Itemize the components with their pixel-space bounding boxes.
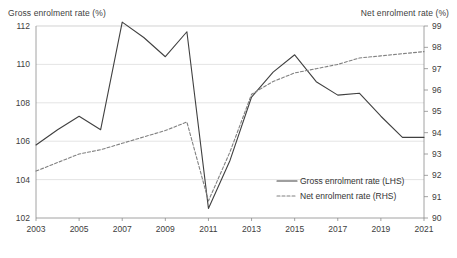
- x-tick-label: 2005: [70, 224, 89, 234]
- x-tick-label: 2021: [415, 224, 434, 234]
- plot-area-border: [36, 26, 424, 218]
- right-tick-label: 95: [432, 106, 442, 116]
- right-tick-label: 94: [432, 128, 442, 138]
- left-tick-label: 112: [16, 21, 30, 31]
- left-tick-label: 102: [16, 213, 30, 223]
- right-tick-label: 97: [432, 64, 442, 74]
- legend-label-1: Net enrolment rate (RHS): [300, 191, 397, 201]
- right-tick-label: 98: [432, 42, 442, 52]
- x-tick-label: 2003: [27, 224, 46, 234]
- right-tick-label: 92: [432, 170, 442, 180]
- left-tick-label: 110: [16, 59, 30, 69]
- right-tick-label: 90: [432, 213, 442, 223]
- right-tick-label: 96: [432, 85, 442, 95]
- x-tick-label: 2015: [285, 224, 304, 234]
- x-tick-label: 2019: [371, 224, 390, 234]
- x-tick-label: 2007: [113, 224, 132, 234]
- x-axis-ticks: 2003200520072009201120132015201720192021: [27, 218, 434, 234]
- x-tick-label: 2009: [156, 224, 175, 234]
- left-axis-ticks: 102104106108110112: [16, 21, 30, 223]
- line-chart-plot: 102104106108110112 90919293949596979899 …: [0, 0, 457, 258]
- right-tick-label: 99: [432, 21, 442, 31]
- left-tick-label: 106: [16, 136, 30, 146]
- left-tick-label: 104: [16, 175, 30, 185]
- gridlines: [36, 26, 424, 180]
- legend-label-0: Gross enrolment rate (LHS): [300, 176, 405, 186]
- right-tick-label: 91: [432, 192, 442, 202]
- chart-container: Gross enrolment rate (%) Net enrolment r…: [0, 0, 457, 258]
- right-tick-label: 93: [432, 149, 442, 159]
- x-tick-label: 2017: [328, 224, 347, 234]
- x-tick-label: 2011: [199, 224, 218, 234]
- left-tick-label: 108: [16, 98, 30, 108]
- right-axis-ticks: 90919293949596979899: [424, 21, 442, 223]
- x-tick-label: 2013: [242, 224, 261, 234]
